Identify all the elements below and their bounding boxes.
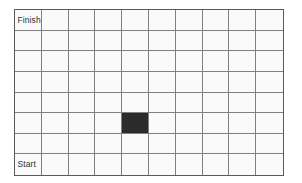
grid-cell[interactable] bbox=[122, 134, 149, 155]
grid-cell[interactable] bbox=[149, 72, 176, 93]
grid-cell[interactable] bbox=[95, 134, 122, 155]
grid-cell[interactable] bbox=[95, 154, 122, 175]
grid-cell[interactable] bbox=[149, 113, 176, 134]
grid-cell[interactable] bbox=[203, 113, 230, 134]
grid-cell[interactable] bbox=[42, 72, 69, 93]
grid-cell[interactable] bbox=[149, 93, 176, 114]
grid-cell[interactable] bbox=[256, 10, 283, 31]
grid-cell[interactable] bbox=[229, 10, 256, 31]
grid-cell[interactable] bbox=[42, 134, 69, 155]
grid-cell[interactable] bbox=[122, 72, 149, 93]
grid-cell[interactable] bbox=[176, 154, 203, 175]
grid-cell[interactable] bbox=[256, 72, 283, 93]
grid-cell[interactable] bbox=[69, 134, 96, 155]
grid-cell[interactable] bbox=[203, 134, 230, 155]
grid-cell[interactable] bbox=[203, 31, 230, 52]
grid-cell[interactable] bbox=[69, 31, 96, 52]
grid-cell[interactable] bbox=[69, 113, 96, 134]
grid-cell[interactable] bbox=[122, 10, 149, 31]
grid-cell[interactable] bbox=[95, 113, 122, 134]
grid-cell[interactable] bbox=[95, 31, 122, 52]
grid-cell[interactable] bbox=[229, 113, 256, 134]
grid-cell[interactable] bbox=[95, 72, 122, 93]
grid-cell[interactable] bbox=[203, 51, 230, 72]
grid-cell[interactable] bbox=[42, 10, 69, 31]
grid-cell[interactable] bbox=[256, 134, 283, 155]
grid-cell[interactable] bbox=[256, 93, 283, 114]
grid-cell[interactable] bbox=[42, 31, 69, 52]
grid-cell[interactable] bbox=[122, 51, 149, 72]
cell-label: Finish bbox=[15, 16, 41, 25]
grid-cell[interactable] bbox=[69, 72, 96, 93]
grid-cell[interactable] bbox=[42, 93, 69, 114]
grid-cell[interactable] bbox=[229, 154, 256, 175]
grid-cell[interactable] bbox=[42, 154, 69, 175]
grid-cell-start[interactable]: Start bbox=[15, 154, 42, 175]
grid-cell[interactable] bbox=[122, 93, 149, 114]
grid-cell[interactable] bbox=[176, 72, 203, 93]
grid-cell[interactable] bbox=[203, 154, 230, 175]
grid-cell[interactable] bbox=[42, 113, 69, 134]
grid-cell[interactable] bbox=[69, 51, 96, 72]
grid-cell[interactable] bbox=[15, 113, 42, 134]
grid-cell[interactable] bbox=[149, 154, 176, 175]
grid-cell[interactable] bbox=[122, 31, 149, 52]
grid-cell[interactable] bbox=[69, 154, 96, 175]
grid-cell[interactable] bbox=[15, 31, 42, 52]
grid-cell[interactable] bbox=[256, 51, 283, 72]
grid-cell-filled[interactable] bbox=[122, 113, 149, 134]
grid-cell[interactable] bbox=[256, 113, 283, 134]
grid-cell[interactable] bbox=[15, 51, 42, 72]
grid-cell[interactable] bbox=[256, 154, 283, 175]
grid-cell[interactable] bbox=[149, 51, 176, 72]
grid-cell[interactable] bbox=[203, 93, 230, 114]
grid-cell[interactable] bbox=[229, 134, 256, 155]
cell-label: Start bbox=[15, 160, 36, 169]
grid-cell[interactable] bbox=[229, 31, 256, 52]
grid-cell[interactable] bbox=[69, 10, 96, 31]
grid-cell[interactable] bbox=[95, 10, 122, 31]
grid-cell[interactable] bbox=[15, 93, 42, 114]
grid-cell[interactable] bbox=[229, 72, 256, 93]
grid-canvas: FinishStart bbox=[0, 0, 302, 183]
grid-cell[interactable] bbox=[15, 134, 42, 155]
grid-cell[interactable] bbox=[122, 154, 149, 175]
grid-cell-finish[interactable]: Finish bbox=[15, 10, 42, 31]
grid-cell[interactable] bbox=[149, 10, 176, 31]
grid-cell[interactable] bbox=[176, 93, 203, 114]
grid-cell[interactable] bbox=[176, 31, 203, 52]
grid-cell[interactable] bbox=[95, 51, 122, 72]
grid-cell[interactable] bbox=[176, 134, 203, 155]
grid-cell[interactable] bbox=[176, 113, 203, 134]
grid-cell[interactable] bbox=[229, 93, 256, 114]
grid-cell[interactable] bbox=[95, 93, 122, 114]
grid-cell[interactable] bbox=[42, 51, 69, 72]
grid-cell[interactable] bbox=[69, 93, 96, 114]
grid-cell[interactable] bbox=[229, 51, 256, 72]
maze-grid-board: FinishStart bbox=[14, 9, 284, 176]
grid-cell[interactable] bbox=[176, 10, 203, 31]
grid-cell[interactable] bbox=[15, 72, 42, 93]
grid-cell[interactable] bbox=[256, 31, 283, 52]
grid-cell[interactable] bbox=[149, 31, 176, 52]
grid-cell[interactable] bbox=[176, 51, 203, 72]
grid-cell[interactable] bbox=[149, 134, 176, 155]
grid-cell[interactable] bbox=[203, 72, 230, 93]
grid-cell[interactable] bbox=[203, 10, 230, 31]
